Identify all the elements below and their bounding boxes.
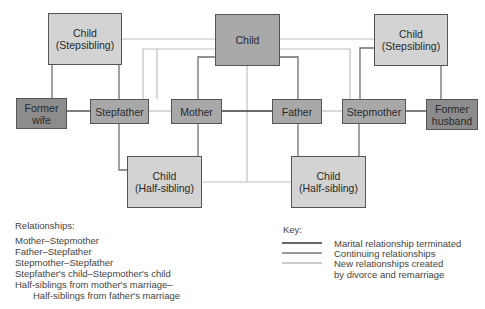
relationships-title: Relationships: <box>15 220 180 231</box>
node-sublabel: (Stepsibling) <box>56 39 114 51</box>
node-label: Former <box>432 103 472 115</box>
former-wife-node: Former wife <box>16 98 67 129</box>
node-label: Child <box>299 170 358 182</box>
node-label: Stepfather <box>95 106 143 118</box>
relationship-item: Mother–Stepmother <box>15 235 180 246</box>
stepmother-node: Stepmother <box>342 99 406 124</box>
key-item-new: New relationships created <box>334 258 443 269</box>
node-label: Stepmother <box>347 106 401 118</box>
child-halfsibling-right-node: Child (Half-sibling) <box>291 156 366 208</box>
relationship-item: Stepfather's child–Stepmother's child <box>15 268 180 279</box>
relationship-item: Half-siblings from mother's marriage– <box>15 279 180 290</box>
node-label: Child <box>382 28 440 40</box>
child-stepsibling-right-node: Child (Stepsibling) <box>374 14 448 66</box>
node-sublabel: husband <box>432 115 472 127</box>
child-stepsibling-left-node: Child (Stepsibling) <box>48 13 122 65</box>
node-label: Child <box>56 27 114 39</box>
node-sublabel: (Stepsibling) <box>382 40 440 52</box>
node-label: Child <box>135 170 194 182</box>
node-label: Father <box>282 106 312 118</box>
former-husband-node: Former husband <box>426 99 478 130</box>
node-label: Child <box>236 34 260 46</box>
child-center-node: Child <box>215 14 280 66</box>
child-halfsibling-left-node: Child (Half-sibling) <box>127 156 202 208</box>
key-title: Key: <box>283 224 302 235</box>
relationship-item: Father–Stepfather <box>15 246 180 257</box>
node-sublabel: wife <box>25 114 59 126</box>
node-label: Former <box>25 102 59 114</box>
relationship-item: Stepmother–Stepfather <box>15 257 180 268</box>
node-sublabel: (Half-sibling) <box>299 182 358 194</box>
key-item-new-continuation: by divorce and remarriage <box>334 269 444 280</box>
relationships-list: Relationships: Mother–Stepmother Father–… <box>15 220 180 301</box>
stepfather-node: Stepfather <box>90 99 149 124</box>
node-sublabel: (Half-sibling) <box>135 182 194 194</box>
mother-node: Mother <box>171 99 222 124</box>
node-label: Mother <box>180 106 213 118</box>
relationship-item-continuation: Half-siblings from father's marriage <box>15 290 180 301</box>
father-node: Father <box>272 99 322 124</box>
